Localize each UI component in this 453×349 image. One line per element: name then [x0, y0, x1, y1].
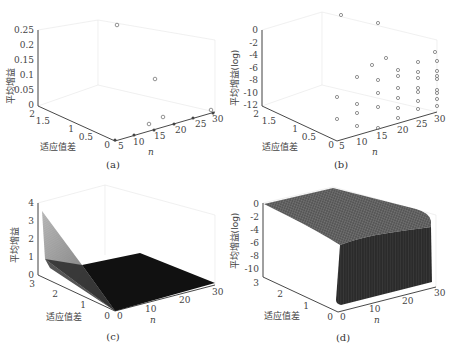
svg-text:10: 10	[145, 304, 157, 314]
svg-text:0: 0	[328, 140, 334, 150]
svg-text:10: 10	[133, 137, 145, 147]
svg-text:-6: -6	[250, 238, 259, 248]
svg-text:0: 0	[340, 312, 346, 322]
svg-text:0: 0	[117, 311, 123, 321]
panel-c: 4 3 2 1 0 3 2 1 0 0 10 20 30 平均增益 适应值差 n…	[0, 175, 226, 349]
svg-text:25: 25	[416, 119, 428, 129]
svg-text:0.5: 0.5	[79, 132, 94, 142]
svg-text:2: 2	[253, 109, 259, 119]
svg-text:5: 5	[339, 141, 345, 151]
chart-c: 4 3 2 1 0 3 2 1 0 0 10 20 30 平均增益 适应值差 n…	[0, 175, 226, 349]
zlabel-b: 平均增益(log)	[229, 50, 240, 107]
svg-text:0: 0	[327, 312, 333, 322]
panel-a: 0.25 0.2 0.15 0.1 0.05 0 2 1.5 1 0.5 0 5…	[0, 0, 226, 175]
svg-text:1: 1	[80, 300, 86, 310]
y-ticks-b: 5 10 15 20 25 30	[339, 114, 446, 151]
svg-text:-4: -4	[250, 225, 259, 235]
svg-text:0: 0	[104, 140, 110, 150]
svg-text:2: 2	[28, 234, 34, 244]
svg-text:1: 1	[68, 124, 74, 134]
svg-text:2: 2	[29, 109, 35, 119]
z-ticks-b: 0 -2 -4 -6 -8 -10 -12	[244, 25, 259, 110]
svg-text:-8: -8	[250, 251, 259, 261]
svg-text:15: 15	[376, 131, 388, 141]
svg-text:3: 3	[253, 278, 259, 288]
svg-text:1: 1	[292, 124, 298, 134]
svg-text:-8: -8	[249, 75, 258, 85]
zlabel-c: 平均增益	[9, 227, 20, 263]
svg-text:1.5: 1.5	[262, 116, 277, 126]
svg-text:-6: -6	[249, 63, 258, 73]
xlabel-d: 适应值差	[264, 310, 300, 321]
svg-text:10: 10	[356, 137, 368, 147]
svg-text:25: 25	[195, 119, 207, 129]
svg-text:-2: -2	[250, 212, 259, 222]
svg-text:20: 20	[402, 296, 414, 306]
chart-a: 0.25 0.2 0.15 0.1 0.05 0 2 1.5 1 0.5 0 5…	[0, 0, 226, 175]
svg-text:0.05: 0.05	[14, 85, 34, 95]
svg-text:4: 4	[28, 198, 34, 208]
y-ticks-a: 5 10 15 20 25 30	[118, 114, 224, 151]
svg-text:1: 1	[28, 252, 34, 262]
svg-text:20: 20	[397, 125, 409, 135]
surface-d	[264, 188, 432, 305]
svg-text:0.15: 0.15	[14, 55, 34, 65]
svg-text:0: 0	[252, 25, 258, 35]
svg-text:20: 20	[179, 295, 191, 305]
chart-b: 0 -2 -4 -6 -8 -10 -12 2 1.5 1 0.5 0 5 10…	[226, 0, 453, 175]
xlabel-a: 适应值差	[40, 141, 76, 152]
svg-text:1.5: 1.5	[36, 116, 51, 126]
svg-text:0: 0	[253, 199, 259, 209]
chart-d: 0 -2 -4 -6 -8 -10 3 2 1 0 0 10 20 30 平均增…	[226, 175, 453, 349]
svg-text:-2: -2	[249, 38, 258, 48]
svg-text:30: 30	[434, 288, 446, 298]
zlabel-d: 平均增益(log)	[229, 213, 240, 270]
svg-text:0: 0	[104, 311, 110, 321]
svg-text:0.2: 0.2	[20, 40, 34, 50]
scatter-points-b	[335, 13, 438, 129]
svg-text:2: 2	[277, 289, 283, 299]
ylabel-b: n	[372, 147, 378, 157]
xlabel-c: 适应值差	[46, 311, 82, 322]
panel-b: 0 -2 -4 -6 -8 -10 -12 2 1.5 1 0.5 0 5 10…	[226, 0, 453, 175]
svg-text:5: 5	[118, 141, 124, 151]
svg-text:3: 3	[28, 216, 34, 226]
svg-text:0.1: 0.1	[20, 70, 34, 80]
caption-a: (a)	[106, 159, 120, 170]
caption-c: (c)	[106, 331, 120, 342]
zlabel-a: 平均增益	[5, 68, 16, 104]
z-ticks-a: 0.25 0.2 0.15 0.1 0.05 0	[14, 25, 34, 110]
svg-text:-4: -4	[249, 50, 258, 60]
svg-text:-10: -10	[245, 264, 260, 274]
xlabel-b: 适应值差	[262, 141, 298, 152]
svg-text:30: 30	[212, 287, 224, 297]
ylabel-d: n	[374, 315, 380, 325]
svg-text:15: 15	[154, 131, 166, 141]
svg-text:-10: -10	[244, 88, 259, 98]
svg-text:2: 2	[52, 289, 58, 299]
svg-text:0.25: 0.25	[14, 25, 34, 35]
z-ticks-d: 0 -2 -4 -6 -8 -10	[245, 199, 260, 274]
caption-b: (b)	[334, 159, 348, 170]
svg-text:30: 30	[212, 114, 224, 124]
svg-text:3: 3	[29, 279, 35, 289]
svg-text:0.5: 0.5	[302, 132, 317, 142]
z-ticks-c: 4 3 2 1 0	[28, 198, 34, 280]
panel-d: 0 -2 -4 -6 -8 -10 3 2 1 0 0 10 20 30 平均增…	[226, 175, 453, 349]
svg-text:10: 10	[369, 304, 381, 314]
svg-text:30: 30	[434, 114, 446, 124]
ylabel-c: n	[150, 315, 156, 325]
svg-text:20: 20	[175, 125, 187, 135]
caption-d: (d)	[336, 332, 350, 343]
svg-text:1: 1	[303, 301, 309, 311]
ylabel-a: n	[148, 147, 154, 157]
